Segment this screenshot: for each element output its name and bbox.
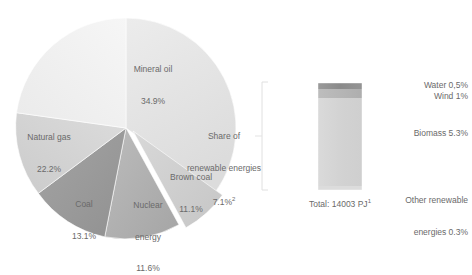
bar-total-superscript: 1 [368,198,371,204]
pie-label-renewables-superscript: 2 [232,196,235,202]
pie-label-coal: Coal 13.1% [52,178,116,262]
bar-segment-biomass [318,83,362,190]
pie-label-mineral-oil-value: 34.9% [110,96,196,107]
pie-label-renewables-value: 7.1% [213,197,232,207]
bar-segment-other-renewable [318,186,362,190]
bar-legend-water: Water 0,5% [372,80,468,91]
bar-total-caption: Total: 14003 PJ1 [280,196,400,209]
pie-label-nuclear-energy-value: 11.6% [117,263,179,274]
pie-label-renewables-value-row: 7.1%2 [178,194,270,207]
bar-legend-other-renewable-line2: energies 0.3% [368,227,468,238]
pie-label-coal-name: Coal [52,199,116,210]
pie-label-renewables-line2: renewable energies [178,163,270,174]
bar-segment-water [318,83,362,89]
pie-label-mineral-oil-name: Mineral oil [110,64,196,75]
bar-total-text: Total: 14003 PJ [309,199,368,209]
bar-legend-wind: Wind 1% [372,91,468,102]
pie-label-coal-value: 13.1% [52,231,116,242]
pie-label-renewables: Share of renewable energies 7.1%2 [178,110,270,228]
pie-label-natural-gas-name: Natural gas [6,132,92,143]
pie-label-natural-gas-value: 22.2% [6,164,92,175]
bar-legend-biomass: Biomass 5.3% [372,128,468,139]
bar-legend-other-renewable: Other renewable energies 0.3% [368,174,468,258]
pie-label-renewables-line1: Share of [178,131,270,142]
